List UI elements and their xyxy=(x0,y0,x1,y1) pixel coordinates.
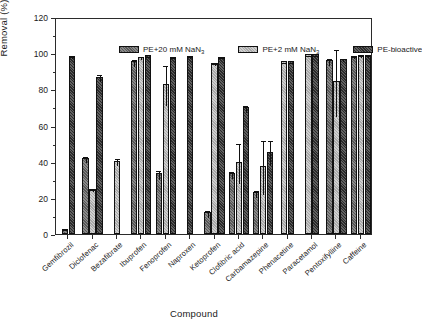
error-bar xyxy=(256,191,257,198)
y-tick-label: 120 xyxy=(0,14,48,23)
x-tick-mark xyxy=(311,235,312,239)
legend-swatch xyxy=(238,46,258,53)
legend-entry: PE+20 mM NaN3 xyxy=(119,45,204,55)
bar xyxy=(170,57,176,234)
error-bar-cap xyxy=(146,57,151,58)
bar xyxy=(305,54,311,234)
bar xyxy=(281,61,287,234)
x-tick-mark xyxy=(238,235,239,239)
error-bar-cap xyxy=(236,144,241,145)
y-tick-label: 80 xyxy=(0,86,48,95)
y-tick-mark xyxy=(51,235,55,236)
error-bar-cap xyxy=(219,58,224,59)
legend-entry: PE-bioactive xyxy=(353,45,422,54)
bar xyxy=(82,158,88,234)
x-tick-label: Caffeine xyxy=(341,241,368,266)
y-tick-label: 0 xyxy=(0,231,48,240)
error-bar xyxy=(239,144,240,184)
bar xyxy=(340,59,346,234)
x-tick-mark xyxy=(92,235,93,239)
bar xyxy=(89,189,95,234)
error-bar-cap xyxy=(115,159,120,160)
error-bar xyxy=(336,50,337,117)
error-bar xyxy=(166,66,167,106)
bar xyxy=(187,56,193,234)
error-bar-cap xyxy=(212,64,217,65)
error-bar xyxy=(329,59,330,66)
bar xyxy=(229,173,235,234)
error-bar-cap xyxy=(139,57,144,58)
bar xyxy=(114,161,120,234)
x-tick-mark xyxy=(262,235,263,239)
error-bar-cap xyxy=(261,141,266,142)
x-tick-mark xyxy=(287,235,288,239)
error-bar xyxy=(232,172,233,179)
bar xyxy=(138,57,144,234)
error-bar xyxy=(270,141,271,166)
bar xyxy=(163,84,169,234)
error-bar xyxy=(100,75,101,82)
bar xyxy=(145,55,151,234)
bar xyxy=(358,55,364,234)
legend-label: PE+20 mM NaN3 xyxy=(143,45,204,55)
y-tick-label: 100 xyxy=(0,50,48,59)
bar xyxy=(326,60,332,234)
error-bar-cap xyxy=(83,157,88,158)
legend-label: PE+2 mM NaN3 xyxy=(262,45,319,55)
chart-legend: PE+20 mM NaN3PE+2 mM NaN3PE-bioactive xyxy=(119,43,420,56)
error-bar-cap xyxy=(243,106,248,107)
bar xyxy=(211,63,217,234)
error-bar xyxy=(246,106,247,113)
error-bar-cap xyxy=(358,56,363,57)
bar xyxy=(351,56,357,234)
error-bar-cap xyxy=(97,75,102,76)
legend-swatch xyxy=(353,46,373,53)
error-bar xyxy=(117,159,118,166)
error-bar-cap xyxy=(90,190,95,191)
bar xyxy=(218,57,224,234)
x-tick-mark xyxy=(67,235,68,239)
error-bar-cap xyxy=(170,58,175,59)
error-bar-cap xyxy=(341,59,346,60)
legend-label: PE-bioactive xyxy=(377,45,422,54)
error-bar-cap xyxy=(205,211,210,212)
x-axis-title: Compound xyxy=(0,308,388,319)
plot-frame: PE+20 mM NaN3PE+2 mM NaN3PE-bioactive xyxy=(55,18,372,235)
bar xyxy=(156,173,162,234)
error-bar xyxy=(159,171,160,180)
error-bar-cap xyxy=(327,59,332,60)
bar xyxy=(69,56,75,234)
error-bar-cap xyxy=(132,60,137,61)
error-bar xyxy=(263,141,264,195)
error-bar-cap xyxy=(163,66,168,67)
error-bar-cap xyxy=(289,63,294,64)
error-bar-cap xyxy=(156,171,161,172)
y-tick-label: 20 xyxy=(0,195,48,204)
error-bar-cap xyxy=(229,172,234,173)
bar xyxy=(243,107,249,234)
bar xyxy=(131,61,137,234)
bar xyxy=(253,192,259,234)
y-tick-label: 60 xyxy=(0,123,48,132)
x-tick-mark xyxy=(335,235,336,239)
error-bar-cap xyxy=(282,63,287,64)
x-tick-mark xyxy=(214,235,215,239)
legend-entry: PE+2 mM NaN3 xyxy=(238,45,319,55)
error-bar-cap xyxy=(254,191,259,192)
x-tick-mark xyxy=(165,235,166,239)
bar xyxy=(312,54,318,234)
error-bar-cap xyxy=(188,57,193,58)
error-bar-cap xyxy=(365,56,370,57)
error-bar-cap xyxy=(62,230,67,231)
bar xyxy=(288,61,294,234)
bar xyxy=(96,77,102,234)
y-tick-label: 40 xyxy=(0,159,48,168)
error-bar-cap xyxy=(268,141,273,142)
x-tick-mark xyxy=(116,235,117,239)
error-bar-cap xyxy=(69,57,74,58)
x-tick-mark xyxy=(189,235,190,239)
legend-swatch xyxy=(119,46,139,53)
x-tick-mark xyxy=(360,235,361,239)
error-bar-cap xyxy=(351,57,356,58)
